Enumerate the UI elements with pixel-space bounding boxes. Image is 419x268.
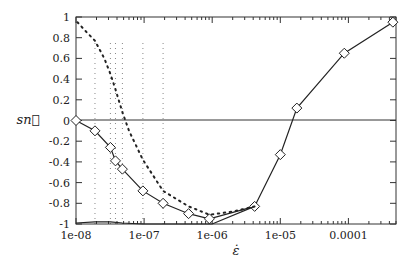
series-line (76, 206, 255, 224)
chart: 1e-081e-071e-061e-050.0001 10.80.60.40.2… (0, 0, 419, 268)
y-tick-label: 0.4 (53, 73, 71, 86)
y-tick-label: -0.6 (49, 177, 70, 190)
y-tick-label: 0 (63, 115, 70, 128)
series-group (71, 17, 398, 224)
x-tick-label: 0.0001 (329, 229, 368, 242)
y-tick-label: 0.2 (53, 94, 71, 107)
y-tick-label: -1 (59, 218, 70, 231)
x-tick-label: 1e-05 (265, 229, 296, 242)
y-axis-ticks: 10.80.60.40.20-0.2-0.4-0.6-0.8-1 (49, 11, 396, 231)
y-tick-label: -0.2 (49, 135, 70, 148)
diamond-marker (184, 209, 194, 219)
x-tick-label: 1e-07 (128, 229, 159, 242)
y-axis-label: sn⃗ (17, 112, 40, 127)
y-tick-label: 0.8 (53, 32, 71, 45)
diamond-marker (71, 116, 81, 126)
y-tick-label: 0.6 (53, 52, 71, 65)
y-tick-label: -0.4 (49, 156, 70, 169)
x-axis-label: ε̇ (233, 243, 240, 258)
y-tick-label: 1 (63, 11, 70, 24)
diamond-marker (275, 150, 285, 160)
y-tick-label: -0.8 (49, 197, 70, 210)
diamond-marker (158, 198, 168, 208)
series-line (77, 22, 254, 215)
x-tick-label: 1e-06 (197, 229, 228, 242)
